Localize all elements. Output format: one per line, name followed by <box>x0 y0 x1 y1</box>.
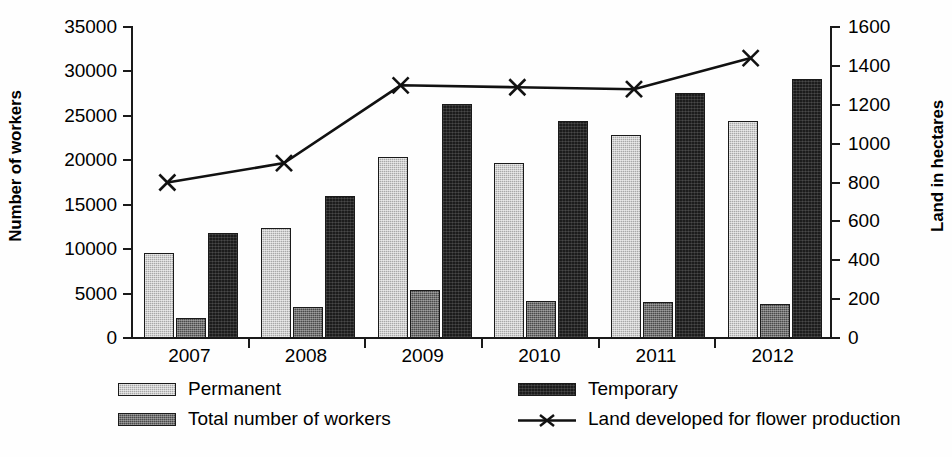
legend-line-x-marker-icon <box>518 413 576 426</box>
bar-permanent[interactable] <box>611 135 641 338</box>
legend-label: Temporary <box>588 378 678 400</box>
bar-permanent[interactable] <box>378 157 408 338</box>
bar-group <box>144 27 238 338</box>
legend-item-temporary[interactable]: Temporary <box>518 378 678 400</box>
y-axis-right-tick-mark <box>831 259 840 261</box>
x-axis-label-2008: 2008 <box>246 345 366 367</box>
bar-group <box>494 27 588 338</box>
bar-total-number-of-workers[interactable] <box>526 301 556 338</box>
bar-total-number-of-workers[interactable] <box>176 318 206 338</box>
y-axis-right-tick-mark <box>831 104 840 106</box>
y-axis-right-tick-label: 200 <box>848 289 880 308</box>
y-axis-right-tick-mark <box>831 143 840 145</box>
legend-label: Total number of workers <box>188 408 391 430</box>
bar-permanent[interactable] <box>261 228 291 338</box>
legend-label: Permanent <box>188 378 281 400</box>
y-axis-right-tick-label: 400 <box>848 250 880 269</box>
chart-container: Number of workers Land in hectares 05000… <box>0 0 952 457</box>
legend-swatch <box>118 383 176 396</box>
bar-temporary[interactable] <box>558 121 588 338</box>
plot-area <box>131 27 831 338</box>
bar-total-number-of-workers[interactable] <box>410 290 440 338</box>
y-axis-left-tick-label: 20000 <box>64 150 117 169</box>
bar-total-number-of-workers[interactable] <box>293 307 323 338</box>
x-axis-label-2010: 2010 <box>479 345 599 367</box>
bar-temporary[interactable] <box>442 104 472 338</box>
x-axis-label-2011: 2011 <box>596 345 716 367</box>
y-axis-right-tick-label: 1400 <box>848 56 890 75</box>
y-axis-left-tick-label: 35000 <box>64 17 117 36</box>
bar-total-number-of-workers[interactable] <box>643 302 673 338</box>
y-axis-right-tick-label: 800 <box>848 173 880 192</box>
y-axis-right-tick-mark <box>831 65 840 67</box>
bar-temporary[interactable] <box>792 79 822 338</box>
bar-permanent[interactable] <box>494 163 524 338</box>
y-axis-right-tick-label: 0 <box>848 328 859 347</box>
y-axis-right-tick-mark <box>831 26 840 28</box>
bar-group <box>378 27 472 338</box>
y-axis-left-tick-label: 15000 <box>64 195 117 214</box>
y-axis-right-tick-label: 600 <box>848 211 880 230</box>
bar-group <box>728 27 822 338</box>
x-axis-label-2012: 2012 <box>713 345 833 367</box>
y-axis-right-tick-mark <box>831 337 840 339</box>
legend-swatch <box>518 383 576 396</box>
legend-item-land-developed-for-flower-production[interactable]: Land developed for flower production <box>518 408 901 430</box>
y-axis-left-tick-label: 0 <box>106 328 117 347</box>
bar-group <box>261 27 355 338</box>
y-axis-right-tick-mark <box>831 298 840 300</box>
bar-total-number-of-workers[interactable] <box>760 304 790 338</box>
y-axis-left-tick-label: 10000 <box>64 239 117 258</box>
y-axis-right-tick-label: 1200 <box>848 95 890 114</box>
bar-permanent[interactable] <box>144 253 174 338</box>
y-axis-right-tick-mark <box>831 220 840 222</box>
y-axis-left-tick-label: 5000 <box>75 284 117 303</box>
y-axis-right-title: Land in hectares <box>928 66 948 266</box>
legend-label: Land developed for flower production <box>588 408 901 430</box>
x-axis-label-2007: 2007 <box>129 345 249 367</box>
legend-item-permanent[interactable]: Permanent <box>118 378 281 400</box>
y-axis-right-tick-label: 1000 <box>848 134 890 153</box>
bar-temporary[interactable] <box>325 196 355 338</box>
y-axis-right-tick-mark <box>831 182 840 184</box>
y-axis-left-tick-labels: 05000100001500020000250003000035000 <box>22 0 117 457</box>
legend-item-total-number-of-workers[interactable]: Total number of workers <box>118 408 391 430</box>
bar-group <box>611 27 705 338</box>
y-axis-left-tick-label: 25000 <box>64 106 117 125</box>
chart-legend: PermanentTemporaryTotal number of worker… <box>118 378 908 440</box>
x-axis-label-2009: 2009 <box>363 345 483 367</box>
legend-swatch <box>118 413 176 426</box>
bar-permanent[interactable] <box>728 121 758 338</box>
y-axis-left-tick-label: 30000 <box>64 61 117 80</box>
bar-temporary[interactable] <box>208 233 238 338</box>
y-axis-right-tick-label: 1600 <box>848 17 890 36</box>
bar-temporary[interactable] <box>675 93 705 338</box>
